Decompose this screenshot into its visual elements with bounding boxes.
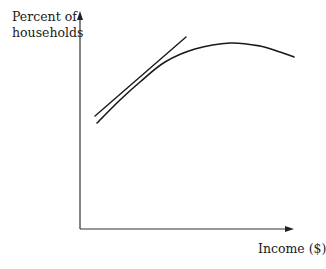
y-axis-label-line-1: Percent of (12, 9, 83, 25)
curve (97, 43, 294, 123)
tangent-line (95, 37, 186, 116)
x-axis-arrow-icon (285, 226, 294, 232)
y-axis-label-line-2: households (12, 25, 83, 41)
y-axis-label: Percent of households (12, 9, 83, 41)
x-axis-label: Income ($) (258, 241, 326, 257)
chart: Percent of households Income ($) (0, 0, 326, 269)
